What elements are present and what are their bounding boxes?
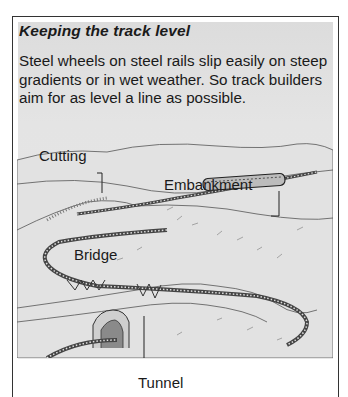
label-tunnel: Tunnel [138, 374, 183, 391]
box-body-text: Steel wheels on steel rails slip easily … [19, 52, 339, 108]
label-cutting: Cutting [39, 147, 87, 164]
track-landscape-illustration [17, 140, 333, 358]
label-bridge: Bridge [74, 246, 117, 263]
label-embankment: Embankment [164, 176, 252, 193]
box-title: Keeping the track level [19, 22, 190, 40]
